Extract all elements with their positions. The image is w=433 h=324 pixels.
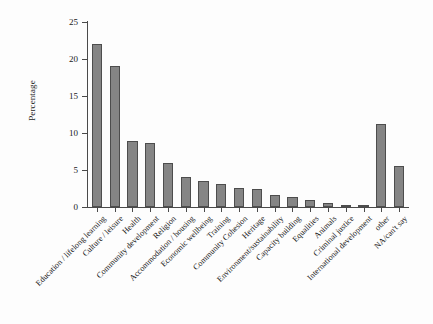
y-tick-label-text: 10	[52, 129, 78, 138]
x-tick-mark	[168, 208, 169, 212]
x-axis-line	[87, 207, 409, 208]
bar	[376, 124, 386, 207]
bar	[252, 189, 262, 207]
x-tick-mark	[328, 208, 329, 212]
y-tick-label: 25	[52, 18, 78, 27]
bar	[216, 184, 226, 207]
x-tick-mark	[97, 208, 98, 212]
x-tick-mark	[364, 208, 365, 212]
y-tick-label-text: 20	[52, 55, 78, 64]
x-tick-mark	[346, 208, 347, 212]
y-tick-label: 15	[52, 92, 78, 101]
x-tick-mark	[275, 208, 276, 212]
bar	[270, 195, 280, 207]
bar	[305, 200, 315, 207]
x-tick-mark	[257, 208, 258, 212]
x-tick-mark	[204, 208, 205, 212]
bar	[127, 141, 137, 207]
x-tick-mark	[221, 208, 222, 212]
x-tick-mark	[186, 208, 187, 212]
plot-area	[88, 22, 408, 207]
y-tick-label: 20	[52, 55, 78, 64]
x-tick-mark	[239, 208, 240, 212]
bar	[163, 163, 173, 207]
bar	[323, 203, 333, 207]
bar	[287, 197, 297, 207]
bar	[181, 177, 191, 207]
bar	[341, 205, 351, 207]
y-tick-label-text: 0	[52, 203, 78, 212]
x-tick-mark	[132, 208, 133, 212]
y-tick-label: 5	[52, 166, 78, 175]
y-tick-label-text: 5	[52, 166, 78, 175]
x-tick-mark	[399, 208, 400, 212]
y-tick-label: 10	[52, 129, 78, 138]
bar	[92, 44, 102, 207]
x-tick-mark	[381, 208, 382, 212]
bar	[234, 188, 244, 207]
bar	[198, 181, 208, 207]
bar	[358, 205, 368, 207]
y-tick-label-text: 15	[52, 92, 78, 101]
x-tick-mark	[310, 208, 311, 212]
bar	[110, 66, 120, 207]
bar	[145, 143, 155, 207]
x-tick-mark	[292, 208, 293, 212]
x-tick-mark	[115, 208, 116, 212]
y-tick-label: 0	[52, 203, 78, 212]
y-tick-label-text: 25	[52, 18, 78, 27]
x-axis-category-label: Education / lifelong learning	[33, 214, 107, 288]
bar	[394, 166, 404, 207]
y-axis-title: Percentage	[28, 56, 37, 146]
x-tick-mark	[150, 208, 151, 212]
bar-chart-figure: Percentage 0510152025 Education / lifelo…	[0, 0, 433, 324]
